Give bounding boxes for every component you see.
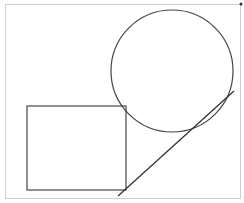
circle-shape — [111, 10, 233, 132]
tangent-line — [118, 91, 234, 196]
corner-marker — [240, 3, 243, 6]
diagram-frame — [6, 5, 241, 199]
square-shape — [27, 106, 126, 190]
diagram-canvas — [0, 0, 244, 203]
